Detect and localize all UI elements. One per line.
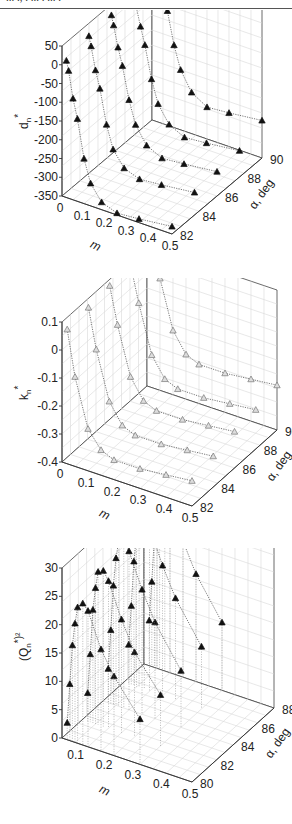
- x-tick-label: 0.1: [78, 476, 95, 490]
- x-tick-label: 0.3: [130, 493, 147, 507]
- z-tick-label: -350: [34, 189, 58, 203]
- z-tick-label: 25: [45, 589, 59, 603]
- z-tick-label: -0.4: [37, 455, 58, 469]
- z-tick-label: -0.1: [37, 371, 58, 385]
- y-tick-label: 84: [241, 740, 255, 754]
- x-tick-label: 0.2: [96, 758, 113, 772]
- chart-b: (b)0.10-0.1-0.2-0.3-0.400.10.20.30.40.58…: [0, 278, 292, 548]
- x-tick-label: 0: [57, 467, 64, 481]
- x-tick-label: 0.1: [74, 209, 91, 223]
- chart-a: (a)500-50-100-150-200-250-300-35000.10.2…: [0, 10, 292, 278]
- y-tick-label: 84: [203, 210, 217, 224]
- y-tick-label: 82: [200, 501, 214, 515]
- x-tick-label: 0.2: [96, 216, 113, 230]
- x-tick-label: 0.4: [153, 777, 170, 791]
- y-tick-label: 90: [270, 153, 284, 167]
- z-axis-label: dn*: [13, 114, 33, 129]
- x-axis-label: m: [97, 782, 112, 799]
- x-tick-label: 0: [57, 201, 64, 215]
- x-tick-label: 0.5: [162, 239, 179, 253]
- y-tick-label: 88: [282, 703, 292, 717]
- z-tick-label: 15: [45, 646, 59, 660]
- z-tick-label: 50: [45, 39, 59, 53]
- x-tick-label: 0.5: [182, 787, 199, 801]
- x-tick-label: 0.1: [67, 748, 84, 762]
- z-tick-label: 30: [45, 561, 59, 575]
- y-tick-label: 84: [221, 482, 235, 496]
- z-tick-label: -150: [34, 114, 58, 128]
- panel-b: (b)0.10-0.1-0.2-0.3-0.400.10.20.30.40.58…: [0, 278, 292, 548]
- z-tick-label: 0.1: [41, 315, 58, 329]
- panel-c: (c)3025201510500.10.20.30.40.58082848688…: [0, 548, 292, 824]
- x-axis-label: m: [88, 237, 103, 254]
- y-tick-label: 82: [221, 759, 235, 773]
- chart-c: (c)3025201510500.10.20.30.40.58082848688…: [0, 548, 292, 824]
- y-tick-label: 88: [264, 444, 278, 458]
- x-axis-label: m: [97, 506, 112, 523]
- y-tick-label: 90: [285, 425, 292, 439]
- z-tick-label: -100: [34, 95, 58, 109]
- x-tick-label: 0.2: [104, 485, 121, 499]
- x-tick-label: 0.3: [118, 224, 135, 238]
- z-tick-label: 0: [51, 731, 58, 745]
- y-tick-label: 86: [225, 191, 239, 205]
- cut-header-line: ... ., . ... . ... .: [0, 0, 292, 8]
- x-tick-label: 0.4: [140, 231, 157, 245]
- z-tick-label: 0: [51, 58, 58, 72]
- z-axis-label: kn*: [13, 386, 33, 400]
- z-axis-label: (Qn*)²: [13, 632, 33, 661]
- x-tick-label: 0.4: [156, 502, 173, 516]
- panel-a: (a)500-50-100-150-200-250-300-35000.10.2…: [0, 10, 292, 278]
- z-tick-label: -200: [34, 133, 58, 147]
- z-tick-label: 10: [45, 674, 59, 688]
- z-tick-label: -250: [34, 152, 58, 166]
- y-tick-label: 86: [262, 722, 276, 736]
- cut-header-text: ... ., . ... . ... .: [6, 0, 61, 3]
- z-tick-label: 5: [51, 703, 58, 717]
- z-tick-label: -0.2: [37, 399, 58, 413]
- z-tick-label: -50: [41, 77, 59, 91]
- y-tick-label: 82: [180, 229, 194, 243]
- z-tick-label: -0.3: [37, 427, 58, 441]
- y-tick-label: 80: [200, 777, 214, 791]
- y-tick-label: 86: [243, 463, 257, 477]
- x-tick-label: 0.3: [124, 768, 141, 782]
- z-tick-label: 0: [51, 343, 58, 357]
- z-tick-label: 20: [45, 618, 59, 632]
- x-tick-label: 0.5: [182, 511, 199, 525]
- header-rule: [0, 8, 292, 9]
- z-tick-label: -300: [34, 170, 58, 184]
